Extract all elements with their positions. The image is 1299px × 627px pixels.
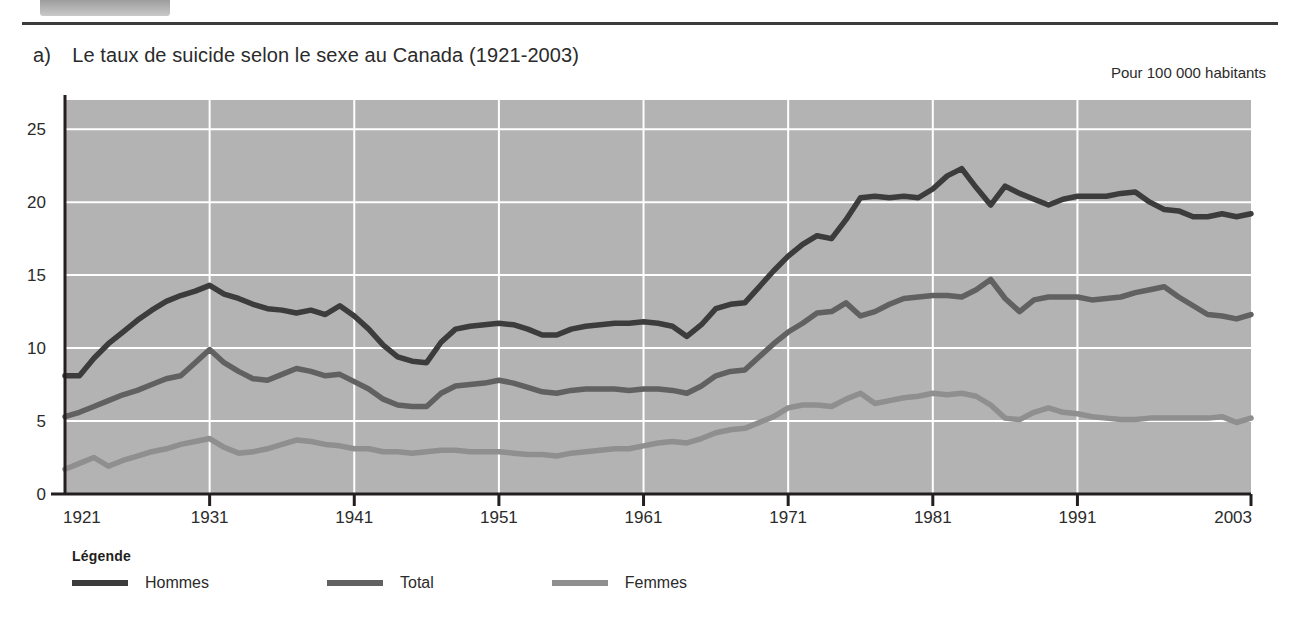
y-axis-tick-label: 20	[27, 193, 46, 212]
x-axis-tick-label: 1961	[625, 508, 663, 527]
legend-swatch-icon	[327, 580, 383, 586]
x-axis-tick-label: 1931	[191, 508, 229, 527]
legend-label: Hommes	[145, 574, 209, 592]
x-axis-tick-label: 1951	[480, 508, 518, 527]
legend-item-hommes[interactable]: Hommes	[72, 574, 209, 592]
chart-legend: Légende HommesTotalFemmes	[72, 548, 772, 592]
legend-label: Femmes	[625, 574, 687, 592]
chart-plot-area: 0510152025192119311941195119611971198119…	[0, 0, 1299, 627]
y-axis-tick-label: 0	[37, 485, 46, 504]
legend-swatch-icon	[72, 580, 128, 586]
x-axis-tick-label: 1981	[914, 508, 952, 527]
legend-item-femmes[interactable]: Femmes	[552, 574, 687, 592]
legend-swatch-icon	[552, 580, 608, 586]
x-axis-tick-label: 2003	[1214, 508, 1252, 527]
legend-items: HommesTotalFemmes	[72, 574, 772, 592]
x-axis-tick-label: 1971	[769, 508, 807, 527]
y-axis-tick-label: 10	[27, 339, 46, 358]
legend-title: Légende	[72, 548, 772, 564]
y-axis-tick-label: 25	[27, 120, 46, 139]
legend-item-total[interactable]: Total	[327, 574, 434, 592]
x-axis-tick-label: 1991	[1059, 508, 1097, 527]
x-axis-tick-label: 1921	[63, 508, 101, 527]
y-axis-tick-label: 5	[37, 412, 46, 431]
x-axis-tick-label: 1941	[335, 508, 373, 527]
y-axis-tick-label: 15	[27, 266, 46, 285]
line-chart-svg: 0510152025192119311941195119611971198119…	[0, 0, 1299, 627]
legend-label: Total	[400, 574, 434, 592]
